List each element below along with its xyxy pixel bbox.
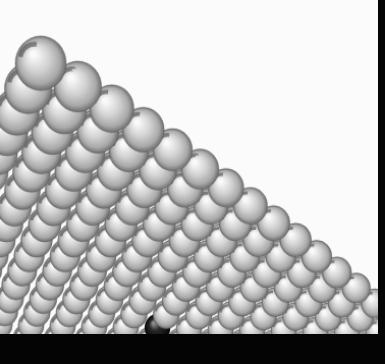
spheres-scene: [0, 0, 378, 334]
caption-band: [0, 334, 385, 364]
right-border: [378, 0, 385, 334]
photo-frame: [0, 0, 378, 334]
